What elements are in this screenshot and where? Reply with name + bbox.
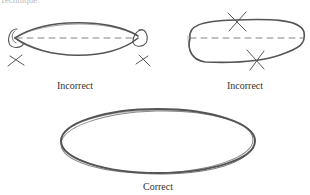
x-mark-top-icon — [228, 12, 246, 31]
x-mark-left-icon — [8, 55, 24, 66]
ellipse-diagram — [0, 0, 310, 195]
label-correct: Correct — [108, 181, 208, 192]
circle-right-end-icon — [133, 30, 147, 47]
incorrect-oblong-drawing — [188, 12, 304, 70]
correct-ellipse-drawing — [60, 108, 255, 175]
x-mark-right-icon — [136, 55, 150, 66]
label-incorrect-right: Incorrect — [195, 80, 295, 91]
label-incorrect-left: Incorrect — [25, 80, 125, 91]
incorrect-lens-drawing — [8, 23, 150, 66]
